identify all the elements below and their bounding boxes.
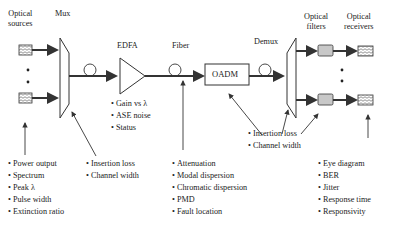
list-item: Insertion loss [86, 158, 139, 170]
ellipsis-dot [27, 69, 30, 72]
receivers-measurements-list: Eye diagram BER Jitter Response time Res… [318, 158, 371, 218]
list-item: Peak λ [8, 182, 64, 194]
label-optical-sources: Optical sources [8, 9, 33, 28]
optical-filter-1 [318, 45, 333, 56]
label-mux: Mux [55, 9, 70, 19]
label-fiber: Fiber [172, 41, 189, 51]
list-item: Power output [8, 158, 64, 170]
list-item: Responsivity [318, 206, 371, 218]
sources-measurements-list: Power output Spectrum Peak λ Pulse width… [8, 158, 64, 218]
list-item: Spectrum [8, 170, 64, 182]
label-oadm: OADM [212, 70, 238, 80]
list-item: Response time [318, 194, 371, 206]
mux-annotation-arrow [72, 112, 96, 156]
mux-shape [60, 38, 69, 118]
list-item: Channel width [248, 140, 301, 152]
list-item: Attenuation [172, 158, 247, 170]
edfa-amplifier-shape [120, 58, 145, 94]
mux-measurements-list: Insertion loss Channel width [86, 158, 139, 182]
ellipsis-dot [341, 80, 344, 83]
fiber-coil [169, 64, 181, 76]
list-item: PMD [172, 194, 247, 206]
label-edfa: EDFA [117, 41, 138, 51]
label-demux: Demux [254, 37, 278, 47]
ellipsis-dot [341, 69, 344, 72]
list-item: Chromatic dispersion [172, 182, 247, 194]
edfa-measurements-list: Gain vs λ ASE noise Status [111, 98, 151, 134]
ellipsis-dot [27, 81, 30, 84]
list-item: Channel width [86, 170, 139, 182]
list-item: Insertion loss [248, 128, 301, 140]
list-item: Gain vs λ [111, 98, 151, 110]
optical-receiver-n [358, 95, 373, 105]
list-item: ASE noise [111, 110, 151, 122]
list-item: Pulse width [8, 194, 64, 206]
list-item: Fault location [172, 206, 247, 218]
filter-annotation-arrow [301, 114, 318, 134]
optical-source-n [19, 93, 32, 103]
optical-source-1 [19, 45, 32, 55]
demux-shape [287, 38, 296, 118]
label-optical-receivers: Optical receivers [344, 12, 374, 31]
label-optical-filters: Optical filters [304, 12, 328, 31]
demux-measurements-list: Insertion loss Channel width [248, 128, 301, 152]
list-item: Jitter [318, 182, 371, 194]
fiber-measurements-list: Attenuation Modal dispersion Chromatic d… [172, 158, 247, 218]
optical-filter-n [318, 94, 333, 105]
optical-receiver-1 [358, 46, 373, 56]
fiber-coil [84, 64, 96, 76]
list-item: Eye diagram [318, 158, 371, 170]
fiber-coil [259, 64, 271, 76]
list-item: BER [318, 170, 371, 182]
list-item: Extinction ratio [8, 206, 64, 218]
list-item: Modal dispersion [172, 170, 247, 182]
list-item: Status [111, 122, 151, 134]
